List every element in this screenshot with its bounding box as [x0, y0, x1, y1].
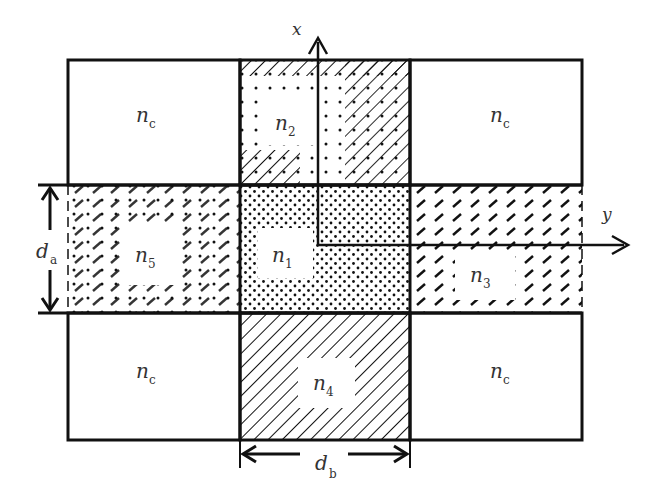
svg-text:n: n [136, 359, 149, 383]
svg-text:n: n [313, 371, 326, 395]
svg-text:4: 4 [326, 385, 334, 399]
svg-text:n: n [470, 263, 483, 287]
svg-text:n: n [136, 103, 149, 127]
svg-text:3: 3 [483, 277, 491, 291]
svg-text:2: 2 [288, 125, 296, 139]
db-subscript: b [329, 467, 337, 481]
da-subscript: a [50, 253, 57, 267]
svg-text:n: n [272, 243, 285, 267]
region-n1 [240, 185, 410, 313]
da-symbol: d [36, 239, 49, 263]
svg-text:n: n [275, 111, 288, 135]
y-axis-label: y [601, 204, 612, 224]
waveguide-diagram: x y d a d b n 2 n 1 n 5 n 3 n 4 n c [0, 0, 658, 496]
svg-text:c: c [149, 117, 156, 131]
svg-text:c: c [503, 117, 510, 131]
region-n3 [410, 185, 582, 313]
region-n2 [240, 60, 410, 185]
svg-text:c: c [149, 373, 156, 387]
svg-text:n: n [490, 359, 503, 383]
svg-text:n: n [490, 103, 503, 127]
svg-text:n: n [135, 243, 148, 267]
x-axis-label: x [292, 19, 302, 39]
svg-text:c: c [503, 373, 510, 387]
svg-text:5: 5 [148, 257, 156, 271]
db-symbol: d [315, 451, 328, 475]
svg-text:1: 1 [285, 257, 293, 271]
region-n5 [68, 185, 240, 313]
